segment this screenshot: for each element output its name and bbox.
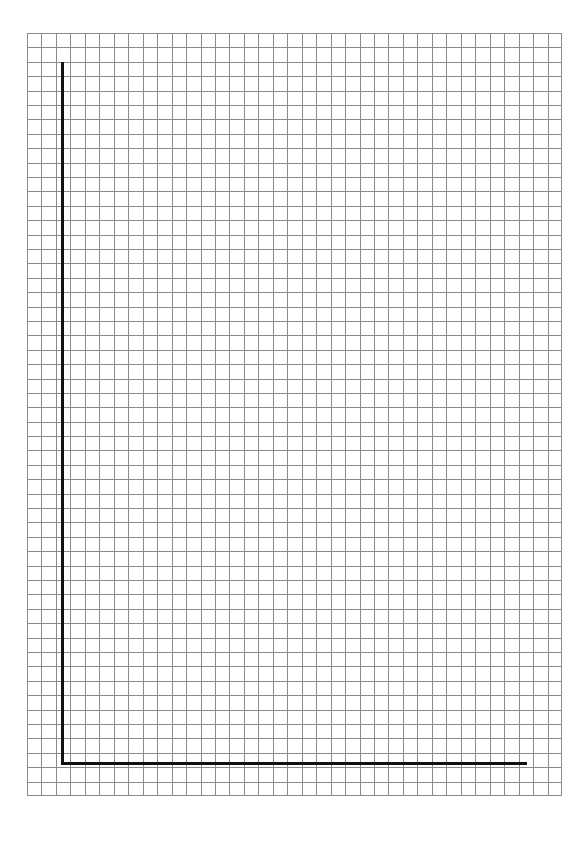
vertical-axis-line	[61, 62, 64, 765]
horizontal-axis-line	[61, 762, 527, 765]
worksheet-page	[0, 0, 588, 845]
graph-paper-grid	[27, 33, 562, 796]
page-header-text	[0, 0, 588, 5]
